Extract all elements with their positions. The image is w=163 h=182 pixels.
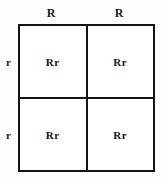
punnett-cell-row2-col2: Rr [87, 98, 154, 170]
punnett-cell-row1-col1: Rr [20, 26, 87, 98]
punnett-cell-row1-col2: Rr [87, 26, 154, 98]
column-header-allele-2: R [107, 5, 131, 21]
column-header-allele-1: R [39, 5, 63, 21]
punnett-cell-row2-col1: Rr [20, 98, 87, 170]
punnett-grid: Rr Rr Rr Rr [18, 24, 155, 172]
punnett-square-diagram: R R r r Rr Rr Rr Rr [0, 0, 163, 182]
row-header-allele-1: r [0, 55, 17, 69]
row-header-allele-2: r [0, 128, 17, 142]
